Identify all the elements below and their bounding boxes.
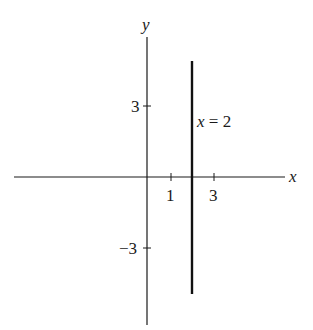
- coordinate-plane: [0, 0, 313, 330]
- y-tick-label-neg3: −3: [119, 240, 137, 257]
- x-axis-label: x: [289, 168, 297, 185]
- y-tick-label-3: 3: [131, 98, 140, 115]
- line-label-equation: = 2: [205, 112, 232, 131]
- y-axis-label: y: [142, 16, 150, 33]
- x-tick-label-1: 1: [166, 187, 175, 204]
- line-label-variable: x: [197, 112, 205, 131]
- line-label: x = 2: [197, 113, 231, 130]
- x-tick-label-3: 3: [209, 187, 218, 204]
